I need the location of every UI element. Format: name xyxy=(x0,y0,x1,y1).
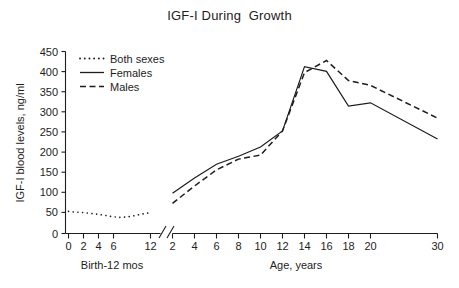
x-tick-label-right: 14 xyxy=(298,240,310,252)
x-axis-title-right: Age, years xyxy=(270,259,323,271)
x-tick-label-right: 16 xyxy=(320,240,332,252)
x-tick-label-right: 4 xyxy=(191,240,197,252)
chart-legend: Both sexes Females Males xyxy=(80,53,165,93)
legend-label-females: Females xyxy=(110,67,153,79)
x-tick-label-right: 6 xyxy=(213,240,219,252)
y-tick-label: 400 xyxy=(40,66,58,78)
x-tick-label-right: 20 xyxy=(364,240,376,252)
x-axis-ticks-right xyxy=(173,234,438,239)
y-tick-label: 300 xyxy=(40,106,58,118)
x-axis-tick-labels-right: 2 4 6 8 10 12 14 16 18 20 30 xyxy=(169,240,443,252)
series-line-males xyxy=(173,61,438,204)
x-axis-tick-labels-left: 0 2 4 6 12 xyxy=(65,240,156,252)
x-axis-title-left: Birth-12 mos xyxy=(81,259,144,271)
series-line-both-sexes xyxy=(69,211,151,217)
legend-label-males: Males xyxy=(110,81,140,93)
y-tick-label: 0 xyxy=(52,228,58,240)
series-line-females xyxy=(173,67,438,194)
x-tick-label-left: 2 xyxy=(80,240,86,252)
x-axis-ticks-left xyxy=(69,234,151,239)
y-tick-label: 150 xyxy=(40,166,58,178)
y-tick-label: 100 xyxy=(40,186,58,198)
y-tick-label: 350 xyxy=(40,86,58,98)
x-tick-label-right: 10 xyxy=(254,240,266,252)
axis-break-icon xyxy=(159,226,174,238)
chart-figure: IGF-I During Growth 450 400 350 300 250 … xyxy=(0,0,459,288)
x-tick-label-left: 0 xyxy=(65,240,71,252)
y-tick-label: 200 xyxy=(40,146,58,158)
x-tick-label-right: 30 xyxy=(431,240,443,252)
y-axis-ticks xyxy=(62,52,66,234)
x-tick-label-right: 8 xyxy=(235,240,241,252)
y-axis-tick-labels: 450 400 350 300 250 200 150 100 50 0 xyxy=(40,46,58,240)
y-axis-title: IGF-I blood levels, ng/ml xyxy=(14,83,26,202)
x-tick-label-right: 18 xyxy=(342,240,354,252)
x-tick-label-left: 6 xyxy=(110,240,116,252)
x-tick-label-right: 12 xyxy=(276,240,288,252)
x-tick-label-right: 2 xyxy=(169,240,175,252)
x-tick-label-left: 4 xyxy=(95,240,101,252)
legend-label-both-sexes: Both sexes xyxy=(110,53,165,65)
y-tick-label: 450 xyxy=(40,46,58,58)
y-tick-label: 250 xyxy=(40,126,58,138)
y-tick-label: 50 xyxy=(46,206,58,218)
x-tick-label-left: 12 xyxy=(144,240,156,252)
chart-plot-area: 450 400 350 300 250 200 150 100 50 0 IGF… xyxy=(0,0,459,288)
